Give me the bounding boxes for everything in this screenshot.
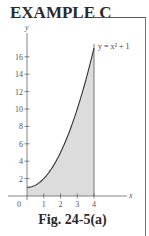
y-tick-label: 6 (19, 140, 23, 149)
y-axis-label: y (24, 23, 29, 32)
figure-caption: Fig. 24-5(a) (0, 212, 145, 228)
shaded-area (27, 48, 94, 196)
x-tick-label: 4 (92, 200, 96, 209)
y-tick-label: 12 (15, 88, 23, 97)
y-tick-label: 8 (19, 122, 23, 131)
chart-plot: 246810121416 1234 y x 0 y = x² + 1 (0, 0, 149, 236)
y-tick-label: 2 (19, 175, 23, 184)
x-tick-label: 3 (75, 200, 79, 209)
y-tick-label: 14 (15, 70, 23, 79)
curve-annotation: y = x² + 1 (98, 42, 129, 51)
y-tick-label: 4 (19, 157, 23, 166)
origin-label: 0 (17, 200, 21, 209)
x-axis-label: x (128, 191, 133, 200)
y-tick-label: 16 (15, 53, 23, 62)
y-tick-label: 10 (15, 105, 23, 114)
x-tick-label: 2 (59, 200, 63, 209)
x-tick-label: 1 (42, 200, 46, 209)
